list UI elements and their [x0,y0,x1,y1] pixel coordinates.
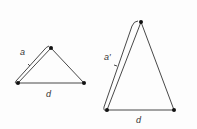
large-triangle [104,21,174,111]
small-side-label: a [20,47,25,57]
large-side-brace [104,21,138,107]
small-vertex-left [16,81,20,85]
large-vertex-top [139,20,143,24]
large-side-label: a′ [104,52,111,62]
small-vertex-right [82,81,86,85]
triangles-drawing [0,0,197,129]
small-base-label: d [46,89,51,99]
small-triangle [15,46,84,84]
small-vertex-top [49,46,53,50]
triangle-diagram: a d a′ d [0,0,197,129]
large-vertex-right [172,108,176,112]
large-vertex-left [105,108,109,112]
large-base-label: d [136,115,141,125]
